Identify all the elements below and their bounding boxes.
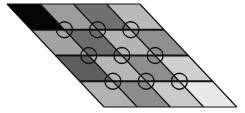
- shaded-parallelogram-grid: [0, 0, 245, 113]
